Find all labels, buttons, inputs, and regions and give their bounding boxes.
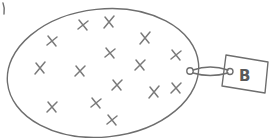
- cross-mark: [135, 60, 145, 70]
- cross-mark: [105, 48, 115, 58]
- cross-mark: [75, 66, 85, 76]
- cross-mark: [140, 32, 150, 44]
- cross-mark: [104, 16, 114, 28]
- tag-eyelet: [227, 69, 233, 75]
- corner-stroke: [3, 3, 4, 14]
- cross-mark: [35, 62, 45, 74]
- tag-label: B: [239, 67, 250, 85]
- cross-mark: [107, 115, 117, 125]
- cross-mark: [78, 20, 88, 30]
- oval-eyelet: [187, 68, 193, 74]
- cross-marks: [35, 16, 181, 125]
- cross-mark: [171, 50, 181, 60]
- cross-mark: [149, 86, 159, 98]
- string-loop: [187, 67, 233, 76]
- oval-tag-diagram: B: [0, 0, 270, 138]
- cross-mark: [171, 83, 181, 93]
- cross-mark: [47, 36, 57, 46]
- cross-mark: [91, 98, 101, 108]
- cross-mark: [112, 80, 122, 90]
- cross-mark: [47, 102, 57, 112]
- oval-region: [1, 0, 205, 138]
